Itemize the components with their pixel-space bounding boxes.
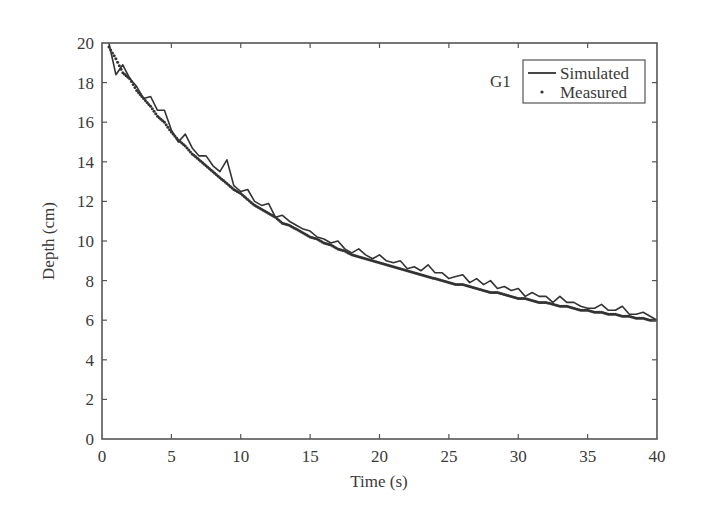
- y-tick-label: 16: [77, 113, 94, 132]
- x-tick-label: 10: [232, 447, 249, 466]
- chart-canvas: 051015202530354002468101214161820 Time (…: [0, 0, 701, 513]
- legend-label-measured: Measured: [560, 83, 628, 102]
- legend-dot-swatch: [540, 90, 543, 93]
- x-tick-label: 30: [510, 447, 527, 466]
- y-tick-label: 10: [77, 232, 94, 251]
- y-axis-title: Depth (cm): [39, 202, 58, 280]
- y-tick-label: 18: [77, 74, 94, 93]
- x-tick-label: 0: [98, 447, 107, 466]
- x-tick-label: 40: [649, 447, 666, 466]
- chart-annotation-g1: G1: [490, 72, 511, 91]
- y-tick-label: 8: [86, 272, 95, 291]
- x-axis-title: Time (s): [350, 472, 407, 491]
- x-tick-label: 25: [440, 447, 457, 466]
- legend: Simulated Measured: [523, 60, 645, 103]
- x-tick-label: 15: [302, 447, 319, 466]
- y-tick-label: 2: [86, 390, 95, 409]
- x-tick-label: 35: [579, 447, 596, 466]
- y-tick-label: 0: [86, 430, 95, 449]
- x-tick-label: 5: [167, 447, 176, 466]
- y-tick-label: 4: [86, 351, 95, 370]
- y-tick-label: 20: [77, 34, 94, 53]
- y-tick-label: 14: [77, 153, 95, 172]
- x-tick-label: 20: [371, 447, 388, 466]
- y-tick-label: 6: [86, 311, 95, 330]
- legend-label-simulated: Simulated: [560, 64, 629, 83]
- y-tick-label: 12: [77, 192, 94, 211]
